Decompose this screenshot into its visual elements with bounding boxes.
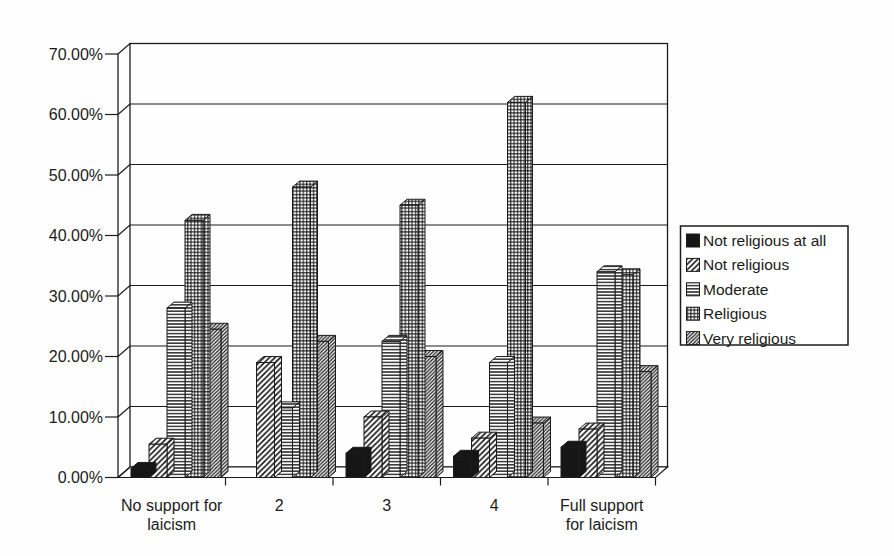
bar-side [615,266,622,478]
x-tick-label: Full support [560,497,644,514]
legend-item: Very religious [687,330,797,347]
bar-side [633,269,640,478]
legend-item: Religious [687,305,768,322]
legend-label: Moderate [703,281,768,298]
y-tick-depth-connector [118,346,130,357]
y-tick-label: 60.00% [49,106,103,123]
legend-item: Moderate [687,281,769,298]
bar-side [311,181,318,477]
bar-side [275,357,282,478]
bar-side [490,432,497,477]
bar [454,450,479,477]
legend: Not religious at allNot religiousModerat… [681,226,849,347]
bar-side [382,411,389,478]
legend-label: Not religious at all [703,232,826,249]
bar-side [436,351,443,478]
bar-chart-svg: 0.00%10.00%20.00%30.00%40.00%50.00%60.00… [0,0,894,556]
legend-swatch-diag-sparse-icon [687,258,700,271]
legend-label: Very religious [703,330,796,347]
legend-swatch-diag-dense-icon [687,332,700,345]
legend-swatch-solid-icon [687,234,700,247]
bar-side [400,335,407,477]
bar-front [561,447,579,477]
bar-front [257,363,275,478]
bar [561,441,586,477]
bar-side [203,214,210,477]
y-tick-depth-connector [118,165,130,176]
x-tick-label: 3 [382,497,391,514]
bar-side [293,402,300,478]
x-tick-label: 4 [490,497,499,514]
x-tick-label: laicism [147,516,196,533]
x-tick-label: 2 [275,497,284,514]
bar-side [167,438,174,477]
figure-bar-chart: 0.00%10.00%20.00%30.00%40.00%50.00%60.00… [0,0,894,556]
bar-side [544,417,551,477]
bar-side [185,302,192,477]
bar-side [651,366,658,478]
bar-front [346,453,364,477]
bar-side [508,357,515,478]
y-tick-depth-connector [118,286,130,297]
legend-label: Not religious [703,256,789,273]
bar-front [131,468,149,477]
bar [131,462,156,477]
bar-side [329,335,336,477]
y-tick-depth-connector [118,104,130,115]
x-tick-label: for laicism [566,516,638,533]
legend-swatch-hlines-icon [687,283,700,296]
y-tick-label: 70.00% [49,46,103,63]
bar [257,357,282,478]
y-tick-depth-connector [118,44,130,55]
y-tick-depth-connector [118,225,130,236]
bar-side [418,199,425,477]
legend-label: Religious [703,305,767,322]
y-tick-label: 40.00% [49,227,103,244]
y-tick-label: 30.00% [49,288,103,305]
y-tick-label: 20.00% [49,348,103,365]
bar [346,447,371,477]
y-tick-label: 0.00% [58,469,103,486]
bar-side [221,323,228,477]
legend-swatch-grid-icon [687,307,700,320]
y-tick-label: 10.00% [49,409,103,426]
y-tick-depth-connector [118,407,130,418]
bar-front [454,456,472,477]
x-tick-label: No support for [121,497,223,514]
bar-side [526,96,533,477]
bar-side [597,423,604,477]
legend-item: Not religious at all [687,232,827,249]
y-tick-label: 50.00% [49,167,103,184]
